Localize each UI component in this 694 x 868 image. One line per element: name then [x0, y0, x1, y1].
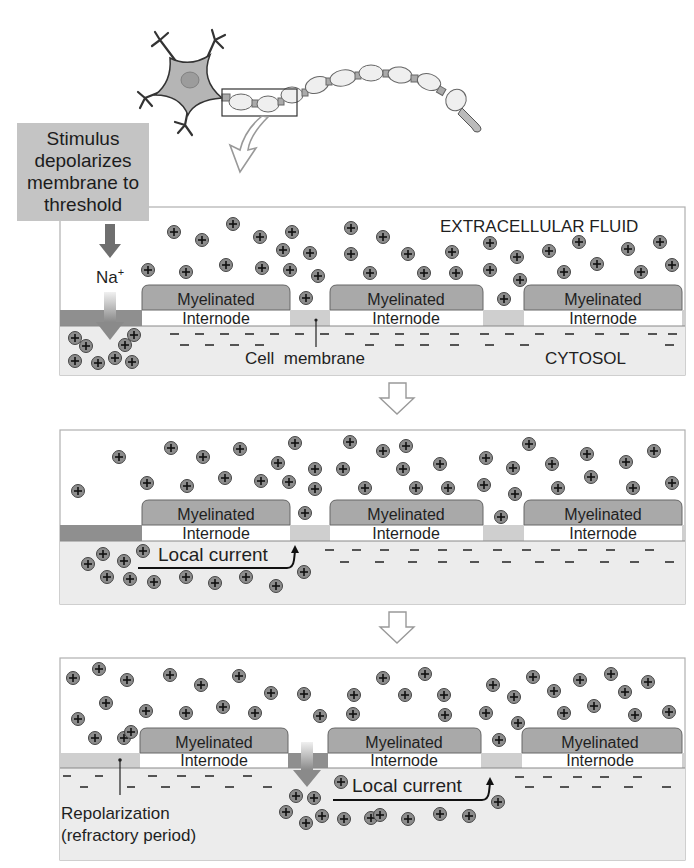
cell-membrane-label: Cell membrane [245, 349, 365, 368]
extracellular-fluid-label: EXTRACELLULAR FLUID [440, 217, 638, 236]
local-current-label: Local current [158, 544, 269, 565]
panel-2: Myelinated Internode Myelinated Internod… [60, 430, 685, 604]
internode-label: Internode [372, 310, 440, 327]
refractory-period-label: (refractory period) [61, 826, 196, 845]
internode-label: Internode [566, 752, 634, 769]
neuron-illustration [138, 30, 481, 172]
internode-label: Myelinated [177, 506, 254, 523]
internode-label: Internode [182, 525, 250, 542]
node-of-ranvier [483, 310, 524, 326]
node-of-ranvier [290, 310, 330, 326]
internode-label: Myelinated [177, 291, 254, 308]
stimulus-line: Stimulus [27, 128, 139, 150]
internode-label: Myelinated [367, 506, 444, 523]
stimulus-line: threshold [27, 194, 139, 216]
internode-label: Myelinated [564, 506, 641, 523]
internode-label: Myelinated [561, 734, 638, 751]
internode-label: Internode [370, 752, 438, 769]
curved-arrow-icon [230, 116, 268, 172]
internode-label: Myelinated [175, 734, 252, 751]
cytosol-label: CYTOSOL [545, 349, 626, 368]
internode-label: Myelinated [564, 291, 641, 308]
hollow-down-arrow-icon [380, 612, 414, 643]
local-current-label: Local current [352, 775, 463, 796]
internode-label: Internode [569, 310, 637, 327]
stimulus-line: membrane to [27, 172, 139, 194]
hollow-down-arrow-icon [380, 383, 414, 414]
internode-label: Myelinated [367, 291, 444, 308]
internode-label: Internode [180, 752, 248, 769]
internode-label: Internode [569, 525, 637, 542]
internode-label: Myelinated [365, 734, 442, 751]
repolarized-node [60, 753, 140, 768]
internode-label: Internode [182, 310, 250, 327]
internode-label: Internode [372, 525, 440, 542]
panel-3: Myelinated Internode Myelinated Internod… [60, 658, 685, 860]
repolarization-label: Repolarization [61, 804, 170, 823]
stimulus-line: depolarizes [27, 150, 139, 172]
panel-1: Myelinated Internode Myelinated Internod… [60, 207, 685, 375]
stimulus-box: Stimulus depolarizes membrane to thresho… [17, 123, 149, 221]
